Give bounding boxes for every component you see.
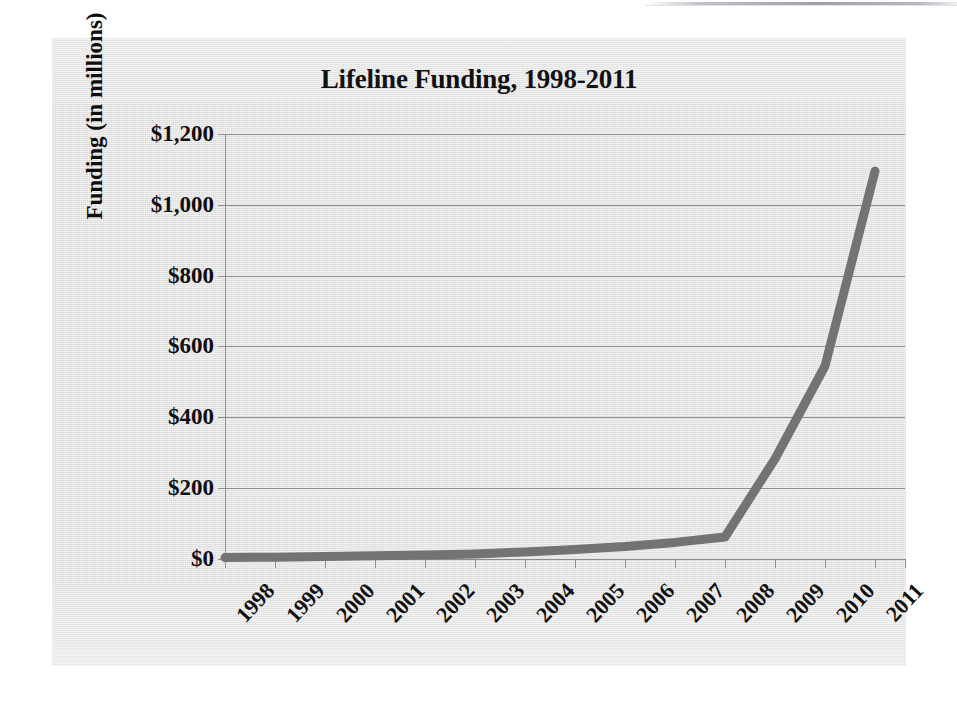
- x-axis-label-2008: 2008: [731, 578, 780, 628]
- x-axis-label-2004: 2004: [531, 578, 580, 628]
- x-axis-label-2003: 2003: [481, 578, 530, 628]
- line-series-lifeline-funding: [225, 171, 875, 557]
- x-axis-label-2011: 2011: [881, 578, 929, 627]
- y-axis-title-container: Funding (in millions): [88, 136, 118, 566]
- x-axis-label-2006: 2006: [631, 578, 680, 628]
- scan-artifact-line: [645, 5, 957, 6]
- x-axis-label-2001: 2001: [381, 578, 430, 628]
- x-axis-label-1999: 1999: [281, 578, 330, 628]
- x-axis-label-1998: 1998: [231, 578, 280, 628]
- x-axis-label-2002: 2002: [431, 578, 480, 628]
- x-axis-label-2007: 2007: [681, 578, 730, 628]
- x-axis-label-2010: 2010: [831, 578, 880, 628]
- chart-panel: Lifeline Funding, 1998-2011 $1,200 $1,00…: [52, 38, 906, 666]
- x-axis-tick-labels: 1998 1999 2000 2001 2002 2003 2004 2005 …: [225, 578, 925, 688]
- x-axis-label-2009: 2009: [781, 578, 830, 628]
- data-series-svg: [225, 98, 925, 578]
- x-axis-label-2000: 2000: [331, 578, 380, 628]
- y-axis-title: Funding (in millions): [82, 0, 108, 286]
- x-axis-label-2005: 2005: [581, 578, 630, 628]
